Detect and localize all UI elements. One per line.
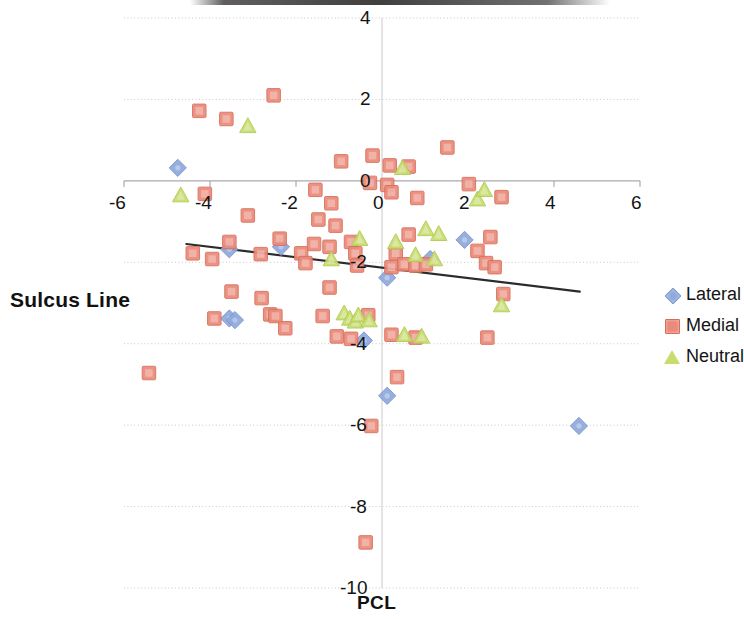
x-tick-label: 4	[545, 193, 556, 212]
data-point	[142, 366, 156, 380]
data-point	[481, 331, 495, 345]
medial-square-icon	[664, 318, 679, 333]
x-tick-label: 6	[631, 193, 642, 212]
data-point	[484, 230, 498, 244]
data-point	[254, 247, 267, 261]
data-point	[476, 182, 492, 197]
legend-item-neutral[interactable]: Neutral	[664, 341, 744, 372]
y-tick-label: -6	[350, 415, 367, 434]
data-point	[269, 309, 283, 323]
data-point	[173, 187, 189, 202]
y-axis-title: Sulcus Line	[10, 288, 130, 312]
data-point	[359, 536, 373, 550]
data-point	[366, 149, 380, 163]
data-point	[312, 213, 326, 227]
data-point	[325, 197, 339, 211]
data-point	[223, 235, 237, 249]
y-tick-label: -8	[350, 497, 367, 516]
x-tick-label: 0	[373, 193, 384, 212]
data-point	[323, 281, 337, 295]
data-point	[279, 321, 293, 335]
legend-item-lateral[interactable]: Lateral	[664, 279, 744, 310]
data-point	[240, 118, 256, 133]
data-point	[411, 191, 425, 205]
scatter-chart: -6-4-20246 420-2-4-6-8-10 Sulcus Line PC…	[0, 0, 744, 619]
data-point	[402, 228, 416, 242]
data-point	[316, 309, 330, 323]
x-tick-label: -6	[109, 193, 126, 212]
data-point	[407, 247, 423, 262]
x-tick-label: -4	[195, 193, 212, 212]
series-medial	[142, 89, 510, 550]
data-point	[462, 177, 476, 191]
data-point	[334, 155, 348, 169]
data-point	[225, 285, 239, 299]
data-point	[208, 312, 222, 326]
data-point	[570, 417, 587, 434]
data-point	[488, 260, 502, 274]
data-point	[307, 237, 321, 251]
data-point	[309, 183, 323, 197]
data-point	[241, 209, 255, 223]
data-point	[220, 112, 234, 126]
lateral-diamond-icon	[664, 287, 679, 302]
data-point	[255, 291, 269, 305]
x-axis-title: PCL	[357, 592, 396, 614]
data-point	[418, 221, 434, 236]
legend-label-lateral: Lateral	[686, 284, 741, 305]
data-point	[390, 370, 404, 384]
y-tick-label: -2	[350, 252, 367, 271]
data-point	[299, 256, 313, 270]
data-point	[193, 104, 207, 118]
x-tick-label: -2	[281, 193, 298, 212]
y-tick-label: 0	[360, 171, 371, 190]
data-point	[330, 330, 344, 344]
data-point	[385, 328, 399, 342]
chart-legend: Lateral Medial Neutral	[664, 279, 744, 372]
y-tick-label: -4	[350, 334, 367, 353]
y-tick-label: 4	[360, 8, 371, 27]
data-point	[379, 387, 396, 404]
data-point	[273, 232, 287, 246]
data-point	[205, 252, 219, 266]
data-point	[441, 141, 455, 155]
data-point	[329, 219, 343, 233]
data-point	[323, 240, 337, 254]
legend-item-medial[interactable]: Medial	[664, 310, 744, 341]
y-tick-label: 2	[360, 89, 371, 108]
trendline	[186, 244, 579, 292]
data-point	[471, 244, 485, 258]
x-tick-label: 2	[459, 193, 470, 212]
legend-label-neutral: Neutral	[686, 346, 744, 367]
data-point	[495, 190, 509, 204]
data-point	[385, 260, 399, 274]
legend-label-medial: Medial	[686, 315, 739, 336]
neutral-triangle-icon	[664, 349, 679, 364]
data-point	[186, 247, 200, 260]
data-point	[267, 89, 281, 103]
data-point	[385, 186, 399, 200]
data-point	[383, 159, 397, 173]
data-point	[169, 159, 186, 176]
data-point	[497, 287, 511, 301]
